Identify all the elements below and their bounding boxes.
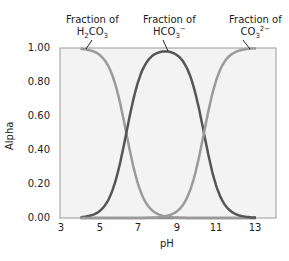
annotation-co3: Fraction of CO32− bbox=[229, 14, 282, 38]
y-tick: 0.40 bbox=[10, 144, 50, 155]
x-tick: 5 bbox=[90, 222, 110, 233]
x-tick: 7 bbox=[128, 222, 148, 233]
annotation-hco3: Fraction of HCO3− bbox=[143, 14, 196, 38]
y-tick: 0.80 bbox=[10, 76, 50, 87]
annotation-text: Fraction of bbox=[229, 14, 282, 26]
y-tick: 0.20 bbox=[10, 178, 50, 189]
x-tick: 11 bbox=[206, 222, 226, 233]
x-axis-title: pH bbox=[160, 238, 174, 249]
annotation-text: Fraction of bbox=[66, 14, 119, 26]
plot-area bbox=[60, 48, 276, 218]
formula-hco3: HCO3− bbox=[143, 26, 196, 38]
y-tick: 1.00 bbox=[10, 42, 50, 53]
y-axis-title: Alpha bbox=[4, 122, 15, 150]
annotation-text: Fraction of bbox=[143, 14, 196, 26]
formula-co3: CO32− bbox=[229, 26, 282, 38]
x-tick: 9 bbox=[167, 222, 187, 233]
y-tick: 0.60 bbox=[10, 110, 50, 121]
annotation-h2co3: Fraction of H2CO3 bbox=[66, 14, 119, 38]
formula-h2co3: H2CO3 bbox=[66, 26, 119, 38]
x-tick: 13 bbox=[245, 222, 265, 233]
y-tick: 0.00 bbox=[10, 212, 50, 223]
x-tick: 3 bbox=[51, 222, 71, 233]
